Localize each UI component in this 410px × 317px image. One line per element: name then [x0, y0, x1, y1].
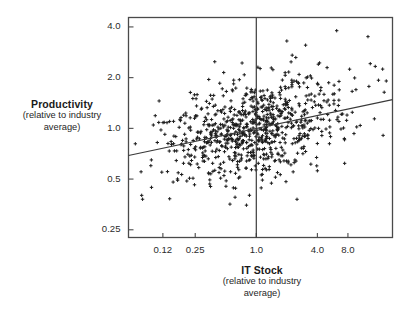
- y-axis-title-main: Productivity: [6, 98, 118, 110]
- y-tick-label-2: 1.0: [95, 122, 121, 133]
- y-tick-label-3: 0.5: [95, 173, 121, 184]
- scatter-plot-figure: Productivity (relative to industry avera…: [0, 0, 410, 317]
- y-tick-label-0: 4.0: [95, 20, 121, 31]
- x-axis-title: IT Stock (relative to industry average): [178, 264, 346, 299]
- x-tick-label-2: 1.0: [241, 244, 271, 255]
- y-axis-title-sub-line1: (relative to industry: [6, 110, 118, 122]
- x-tick-label-1: 0.25: [180, 244, 210, 255]
- x-tick-label-0: 0.12: [148, 244, 178, 255]
- x-axis-title-sub-line1: (relative to industry: [178, 276, 346, 288]
- x-axis-title-sub-line2: average): [178, 288, 346, 300]
- y-tick-label-4: 0.25: [95, 223, 121, 234]
- x-tick-label-4: 8.0: [333, 244, 363, 255]
- x-axis-title-main: IT Stock: [178, 264, 346, 276]
- y-tick-label-1: 2.0: [95, 71, 121, 82]
- x-tick-label-3: 4.0: [302, 244, 332, 255]
